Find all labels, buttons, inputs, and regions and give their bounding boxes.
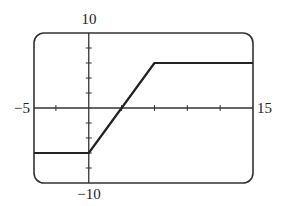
x-min-label: −5 (14, 100, 30, 116)
y-max-label: 10 (82, 11, 97, 27)
y-min-label: −10 (77, 186, 100, 202)
graphing-calculator-window: 10 −10 −5 15 (0, 0, 290, 206)
x-max-label: 15 (257, 100, 272, 116)
